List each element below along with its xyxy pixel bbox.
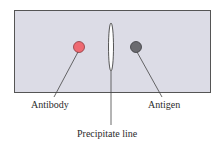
precipitate-line-shape	[109, 23, 114, 71]
antibody-label: Antibody	[31, 99, 69, 110]
precipitate-label: Precipitate line	[77, 128, 137, 139]
antigen-well	[131, 42, 142, 53]
antibody-well	[74, 42, 85, 53]
antigen-label: Antigen	[148, 99, 180, 110]
